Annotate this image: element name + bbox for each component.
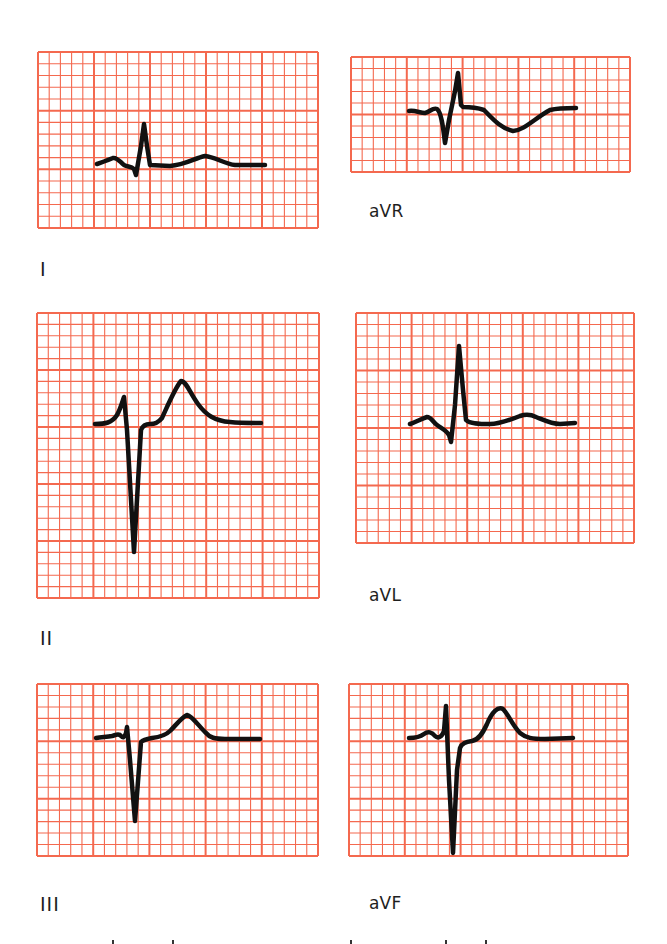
lead-label-avf: aVF xyxy=(369,893,401,913)
ecg-grid-lead-avf xyxy=(349,684,628,856)
lead-label-iii: III xyxy=(40,893,60,915)
cropped-caption-fragment xyxy=(0,936,667,944)
ecg-grid-lead-i xyxy=(38,52,318,228)
lead-label-avr: aVR xyxy=(369,201,403,221)
ecg-grid-lead-avl xyxy=(356,313,634,543)
cropped-glyph-fragment xyxy=(112,940,114,944)
cropped-glyph-fragment xyxy=(485,940,487,944)
ecg-grid-lead-ii xyxy=(37,313,319,598)
cropped-glyph-fragment xyxy=(350,940,352,944)
ecg-grid-lead-iii xyxy=(37,684,318,856)
lead-label-i: I xyxy=(40,258,47,280)
cropped-glyph-fragment xyxy=(172,940,174,944)
lead-label-ii: II xyxy=(40,627,53,649)
cropped-glyph-fragment xyxy=(445,940,447,944)
lead-label-avl: aVL xyxy=(369,585,401,605)
ecg-grid-lead-avr xyxy=(351,57,630,172)
